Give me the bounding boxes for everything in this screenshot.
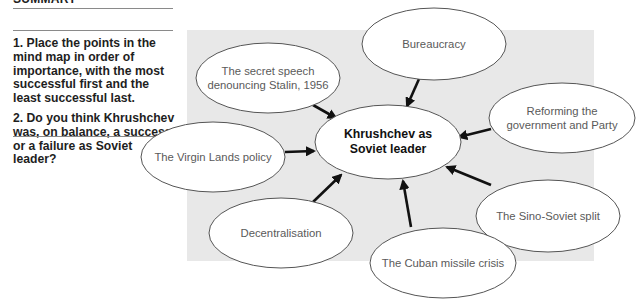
arrow-virgin-lands-to-center <box>285 151 314 152</box>
node-decentralisation-label: Decentralisation <box>209 198 353 268</box>
node-cuban-missile-label: The Cuban missile crisis <box>370 228 516 298</box>
node-reforming-label: Reforming the government and Party <box>489 83 635 153</box>
node-secret-speech-label: The secret speech denouncing Stalin, 195… <box>196 43 340 113</box>
arrow-reforming-to-center <box>459 129 491 137</box>
arrow-cuban-missile-to-center <box>403 181 411 227</box>
node-virgin-lands-label: The Virgin Lands policy <box>141 122 285 192</box>
node-bureaucracy-label: Bureaucracy <box>362 8 506 80</box>
center-node-label: Khrushchev as Soviet leader <box>315 105 461 179</box>
arrow-bureaucracy-to-center <box>407 79 419 106</box>
